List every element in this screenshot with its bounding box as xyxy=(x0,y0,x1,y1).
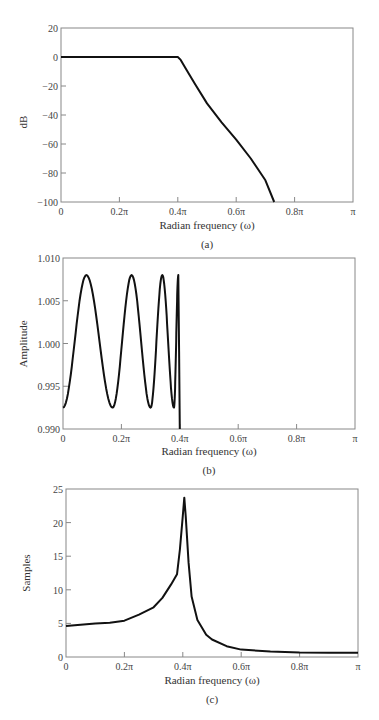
x-ticks-b: 00.2π0.4π0.6π0.8ππ xyxy=(61,424,358,444)
y-ticks-c: 2520151050 xyxy=(53,484,71,663)
figure: 200−20−40−60−80−100 00.2π0.4π0.6π0.8ππ d… xyxy=(0,0,379,720)
y-tick-label: −20 xyxy=(42,81,58,92)
y-tick-label: 5 xyxy=(58,618,63,629)
y-tick-label: 0 xyxy=(58,652,63,663)
x-tick-label: 0.6π xyxy=(229,433,247,444)
y-ticks-a: 200−20−40−60−80−100 xyxy=(37,23,66,208)
y-tick-label: 15 xyxy=(53,551,63,562)
x-tick-label: 0.2π xyxy=(116,661,134,672)
panel-b: 1.0101.0051.0000.9950.990 00.2π0.4π0.6π0… xyxy=(17,253,358,477)
x-tick-label: 0.8π xyxy=(286,206,304,217)
x-tick-label: 0.6π xyxy=(227,206,245,217)
x-ticks-a: 00.2π0.4π0.6π0.8ππ xyxy=(59,197,356,217)
y-tick-label: −60 xyxy=(42,139,58,150)
y-tick-label: −40 xyxy=(42,110,58,121)
y-tick-label: −80 xyxy=(42,168,58,179)
xlabel-c: Radian frequency (ω) xyxy=(164,674,260,687)
y-tick-label: 1.010 xyxy=(38,253,61,264)
plot-frame-b xyxy=(63,258,355,429)
x-tick-label: 0.8π xyxy=(291,661,309,672)
caption-c: (c) xyxy=(206,693,219,706)
xlabel-b: Radian frequency (ω) xyxy=(161,445,257,458)
x-tick-label: 0.4π xyxy=(171,433,189,444)
y-tick-label: −100 xyxy=(37,197,58,208)
xlabel-a: Radian frequency (ω) xyxy=(159,219,255,232)
ylabel-a: dB xyxy=(17,116,29,129)
x-tick-label: 0 xyxy=(61,433,66,444)
x-tick-label: 0.2π xyxy=(111,206,129,217)
y-tick-label: 0.995 xyxy=(38,381,61,392)
y-tick-label: 0.990 xyxy=(38,424,61,435)
y-tick-label: 1.005 xyxy=(38,296,61,307)
ylabel-b: Amplitude xyxy=(17,320,29,367)
x-tick-label: 0.8π xyxy=(288,433,306,444)
x-tick-label: 0.2π xyxy=(113,433,131,444)
ripple-curve xyxy=(63,275,180,429)
y-tick-label: 20 xyxy=(53,518,63,529)
y-tick-label: 10 xyxy=(53,585,63,596)
group-delay-curve xyxy=(66,498,358,653)
y-tick-label: 0 xyxy=(53,52,58,63)
x-tick-label: 0 xyxy=(59,206,64,217)
magnitude-curve xyxy=(61,57,274,202)
y-tick-label: 25 xyxy=(53,484,63,495)
x-tick-label: π xyxy=(350,206,355,217)
plot-frame-a xyxy=(61,28,353,202)
panel-a: 200−20−40−60−80−100 00.2π0.4π0.6π0.8ππ d… xyxy=(17,23,356,251)
x-tick-label: 0.6π xyxy=(232,661,250,672)
x-tick-label: π xyxy=(352,433,357,444)
caption-b: (b) xyxy=(203,464,216,477)
panel-c: 2520151050 00.2π0.4π0.6π0.8ππ Samples Ra… xyxy=(20,484,361,706)
y-tick-label: 20 xyxy=(48,23,58,34)
x-tick-label: 0.4π xyxy=(169,206,187,217)
y-tick-label: 1.000 xyxy=(38,339,61,350)
caption-a: (a) xyxy=(201,238,214,251)
ylabel-c: Samples xyxy=(20,554,32,591)
x-tick-label: 0.4π xyxy=(174,661,192,672)
x-ticks-c: 00.2π0.4π0.6π0.8ππ xyxy=(64,652,361,672)
plot-frame-c xyxy=(66,489,358,657)
x-tick-label: 0 xyxy=(64,661,69,672)
x-tick-label: π xyxy=(355,661,360,672)
